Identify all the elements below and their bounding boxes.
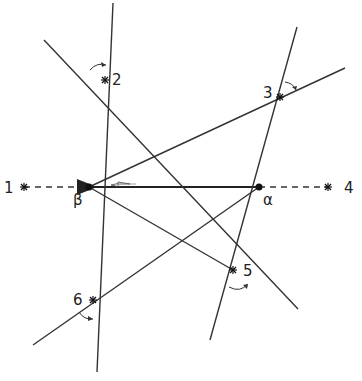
- angle-arc-2: [90, 62, 106, 70]
- label-3: 3: [263, 84, 273, 102]
- label-4: 4: [344, 179, 354, 197]
- star-marker-2: [101, 76, 109, 84]
- label-beta: β: [73, 191, 83, 209]
- direction-arrow-icon: [111, 182, 136, 187]
- line-beta-5: [89, 187, 233, 270]
- label-6: 6: [73, 291, 83, 309]
- line-through-3-alpha-5: [210, 27, 297, 340]
- point-beta-dot: [86, 184, 93, 191]
- label-1: 1: [4, 179, 14, 197]
- angle-arc-5: [229, 284, 248, 289]
- angle-arc-3: [285, 82, 297, 90]
- star-marker-6: [89, 296, 97, 304]
- label-5: 5: [243, 262, 253, 280]
- label-alpha: α: [263, 191, 273, 209]
- angle-arc-6: [79, 312, 93, 321]
- star-marker-5: [229, 266, 237, 274]
- label-2: 2: [112, 71, 122, 89]
- point-alpha-dot: [256, 184, 263, 191]
- star-marker-1: [20, 183, 28, 191]
- line-through-2-alpha-5: [44, 40, 298, 309]
- star-marker-3: [276, 93, 284, 101]
- geometry-diagram: 1 2 3 4 5 6 β α: [0, 0, 362, 381]
- star-marker-4: [324, 183, 332, 191]
